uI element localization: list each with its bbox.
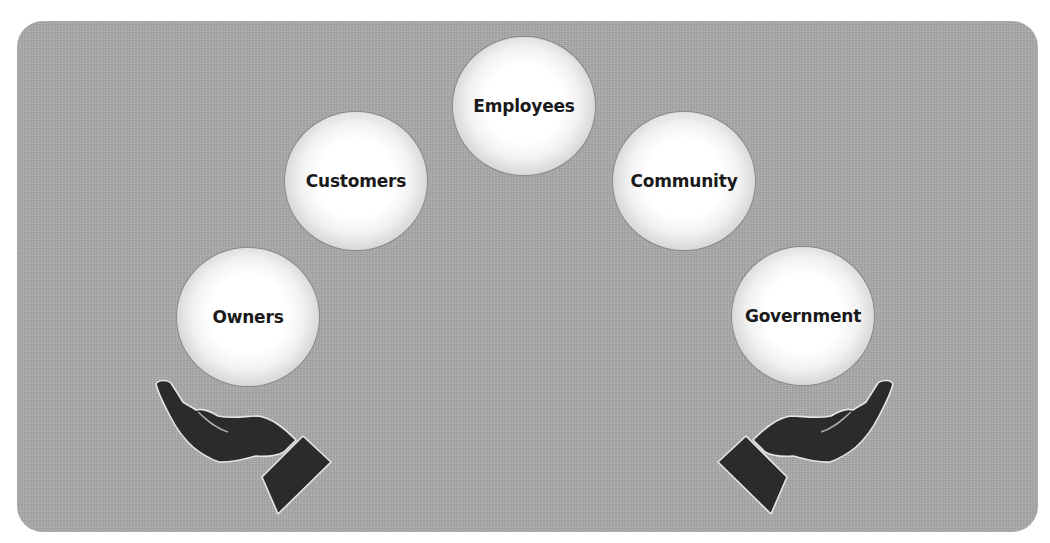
open-hand-icon: [0, 0, 1050, 543]
